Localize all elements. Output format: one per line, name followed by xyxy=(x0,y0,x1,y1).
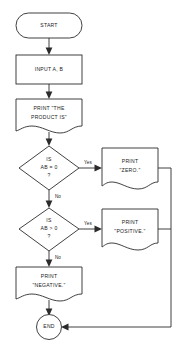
edge-label-no-positive: No xyxy=(55,255,61,260)
edge-decision-positive-no xyxy=(46,251,53,267)
node-end[interactable]: END xyxy=(37,315,62,340)
node-decision-positive[interactable]: IS AB > 0 ? xyxy=(19,208,79,251)
flowchart-canvas: START INPUT A, B PRINT "THE PRODUCT IS" … xyxy=(0,0,178,352)
node-print-product[interactable]: PRINT "THE PRODUCT IS" xyxy=(16,99,82,133)
node-input[interactable]: INPUT A, B xyxy=(16,55,82,84)
node-decision-positive-label-line1: IS xyxy=(46,217,52,223)
node-print-positive-label-line1: PRINT xyxy=(122,219,139,225)
edge-input-to-print-product xyxy=(46,84,53,99)
edge-decision-zero-no xyxy=(46,190,53,208)
node-print-zero[interactable]: PRINT "ZERO." xyxy=(102,148,158,189)
node-print-product-label-line1: PRINT "THE xyxy=(33,105,64,111)
node-decision-zero-label-line2: AB = 0 xyxy=(41,164,58,170)
node-input-label: INPUT A, B xyxy=(35,66,64,72)
node-print-negative-label-line2: "NEGATIVE." xyxy=(32,282,65,288)
node-decision-positive-label-line3: ? xyxy=(47,233,50,239)
edge-start-to-input xyxy=(46,38,53,55)
node-print-product-label-line2: PRODUCT IS" xyxy=(31,114,67,120)
edge-label-yes-positive: Yes xyxy=(84,221,92,226)
node-print-zero-label-line2: "ZERO." xyxy=(120,167,141,173)
node-print-negative[interactable]: PRINT "NEGATIVE." xyxy=(16,267,82,301)
node-start-label: START xyxy=(40,22,57,28)
node-end-label: END xyxy=(43,323,55,329)
node-print-positive[interactable]: PRINT "POSITIVE." xyxy=(102,209,158,250)
node-start[interactable]: START xyxy=(16,13,82,38)
edge-print-negative-to-end xyxy=(46,300,53,316)
node-print-negative-label-line1: PRINT xyxy=(41,273,58,279)
edge-print-zero-to-end xyxy=(158,168,171,327)
edge-bus-to-end xyxy=(61,324,171,331)
edge-decision-zero-yes xyxy=(79,165,102,172)
flowchart-diagram: START INPUT A, B PRINT "THE PRODUCT IS" … xyxy=(0,0,178,352)
node-decision-zero[interactable]: IS AB = 0 ? xyxy=(19,146,79,190)
node-print-positive-label-line2: "POSITIVE." xyxy=(114,228,145,234)
edge-decision-positive-yes xyxy=(79,226,102,233)
edge-print-product-to-decision-zero xyxy=(46,132,53,146)
node-decision-zero-label-line3: ? xyxy=(47,172,50,178)
node-decision-zero-label-line1: IS xyxy=(46,156,52,162)
node-print-zero-label-line1: PRINT xyxy=(122,158,139,164)
edge-label-yes-zero: Yes xyxy=(84,160,92,165)
edge-label-no-zero: No xyxy=(55,194,61,199)
node-decision-positive-label-line2: AB > 0 xyxy=(41,225,58,231)
